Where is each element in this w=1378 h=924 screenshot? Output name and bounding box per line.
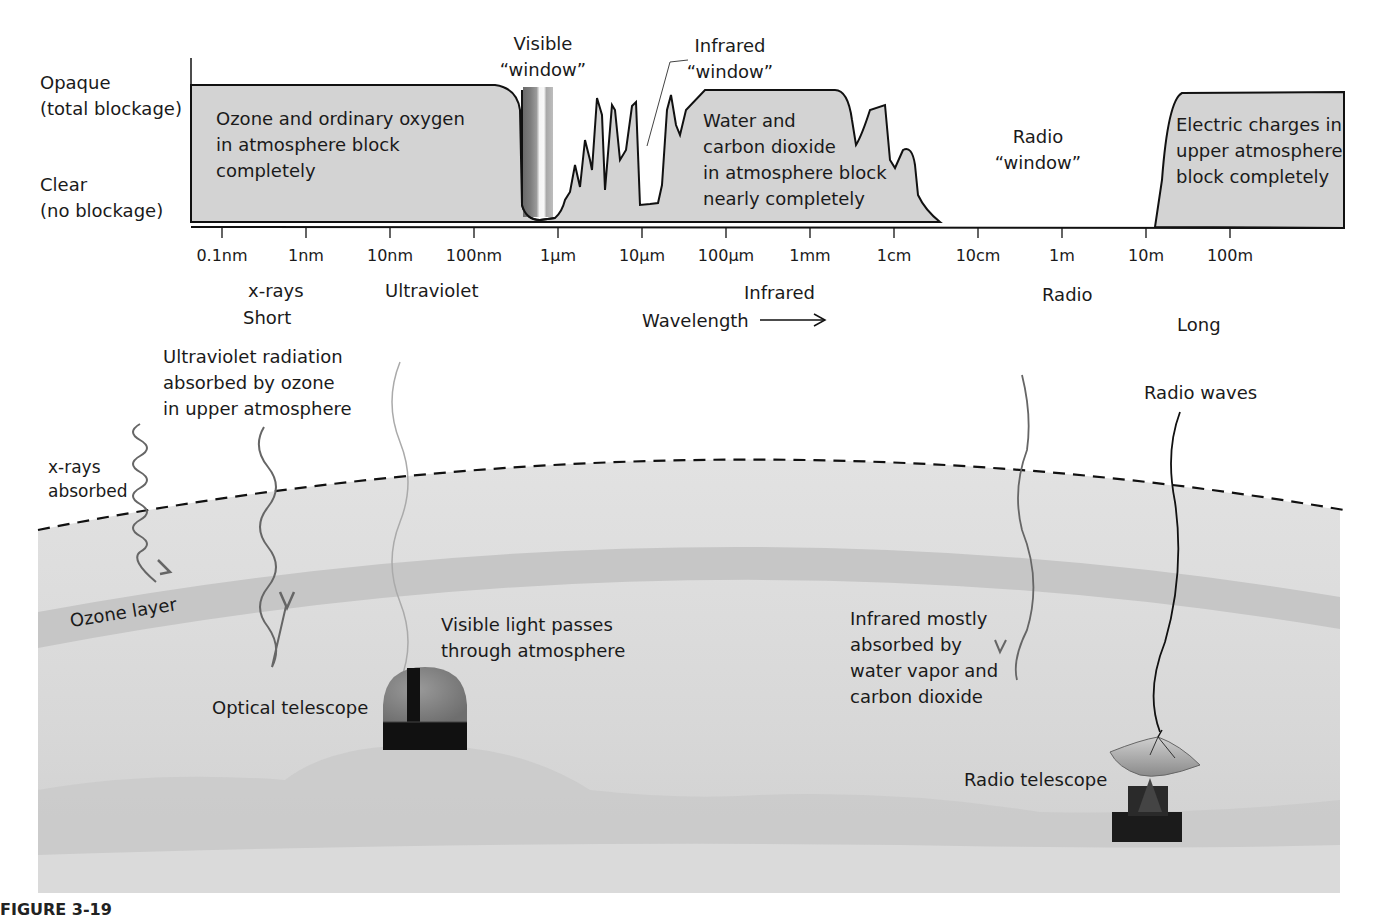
tick-label: 10nm <box>367 246 413 265</box>
optical-telescope-icon <box>383 667 467 750</box>
radio-waves-label: Radio waves <box>1144 380 1257 406</box>
tick-label: 10µm <box>619 246 665 265</box>
tick-label: 100m <box>1207 246 1253 265</box>
visible-light-label: Visible light passes through atmosphere <box>441 612 625 664</box>
tick-label: 1m <box>1049 246 1075 265</box>
tick-label: 1mm <box>789 246 830 265</box>
y-axis-clear-label: Clear (no blockage) <box>40 172 163 224</box>
band-label-ultraviolet: Ultraviolet <box>385 278 478 304</box>
electric-region-label: Electric charges in upper atmosphere blo… <box>1176 112 1342 190</box>
tick-label: 1µm <box>540 246 576 265</box>
tick-label: 1cm <box>877 246 912 265</box>
band-label-radio: Radio <box>1042 282 1093 308</box>
band-label-xrays: x-rays <box>248 278 304 304</box>
figure-caption: FIGURE 3-19 <box>0 900 112 919</box>
infrared-absorbed-label: Infrared mostly absorbed by water vapor … <box>850 606 998 710</box>
y-top-label: Opaque <box>40 70 182 96</box>
y-bottom-sub-label: (no blockage) <box>40 198 163 224</box>
axis-ticks <box>222 228 1230 238</box>
tick-label: 10cm <box>956 246 1001 265</box>
infrared-window-label: Infrared “window” <box>680 33 780 85</box>
radio-window-label: Radio “window” <box>988 124 1088 176</box>
uv-absorbed-label: Ultraviolet radiation absorbed by ozone … <box>163 344 352 422</box>
y-axis-opaque-label: Opaque (total blockage) <box>40 70 182 122</box>
radio-telescope-label: Radio telescope <box>964 767 1107 793</box>
long-label: Long <box>1177 312 1221 338</box>
visible-window-label: Visible “window” <box>498 31 588 83</box>
band-label-infrared: Infrared <box>744 280 815 306</box>
tick-label: 10m <box>1128 246 1164 265</box>
wavelength-axis-title: Wavelength <box>642 308 749 334</box>
xray-absorbed-label: x-rays absorbed <box>48 455 128 503</box>
tick-label: 100µm <box>698 246 754 265</box>
visible-window-band <box>523 87 553 217</box>
tick-label: 1nm <box>288 246 324 265</box>
optical-telescope-label: Optical telescope <box>212 695 368 721</box>
y-top-sub-label: (total blockage) <box>40 96 182 122</box>
tick-label: 100nm <box>446 246 502 265</box>
wavelength-arrow-icon <box>760 314 825 326</box>
diagram-graphics <box>0 0 1378 924</box>
ozone-region-label: Ozone and ordinary oxygen in atmosphere … <box>216 106 465 184</box>
tick-label: 0.1nm <box>196 246 247 265</box>
short-label: Short <box>243 305 291 331</box>
y-bottom-label: Clear <box>40 172 163 198</box>
water-region-label: Water and carbon dioxide in atmosphere b… <box>703 108 887 212</box>
atmosphere-scene <box>38 362 1344 893</box>
